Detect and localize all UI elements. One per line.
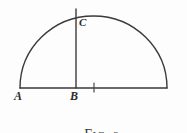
caption-lead-letter: F xyxy=(84,127,92,133)
point-label-c: C xyxy=(79,17,86,28)
caption-figure-number: 2 xyxy=(113,129,119,133)
figure-caption: FIG.2 xyxy=(0,110,187,133)
caption-small-caps: IG. xyxy=(93,129,110,133)
figure-2-container: A B C FIG.2 xyxy=(0,0,187,133)
semicircle-arc xyxy=(20,16,167,88)
point-label-b: B xyxy=(70,90,78,102)
point-label-a: A xyxy=(14,90,22,102)
